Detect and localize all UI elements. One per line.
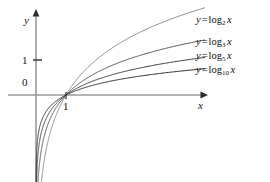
curve-label-log2-equals: = — [201, 14, 209, 25]
curve-label-log3-func: log — [209, 36, 222, 47]
curve-label-log10-func: log — [209, 64, 222, 75]
curve-label-log10-lhs: y — [196, 64, 201, 75]
curve-y-log-10-x — [36, 69, 204, 182]
curve-label-log10-arg: x — [229, 64, 235, 75]
curve-label-log2-lhs: y — [196, 14, 201, 25]
curve-label-log2-base: 2 — [222, 19, 226, 27]
curve-label-log3-arg: x — [226, 36, 232, 47]
curve-label-log3-lhs: y — [196, 36, 201, 47]
curve-label-log5-arg: x — [226, 50, 232, 61]
x-tick-label-1: 1 — [63, 101, 69, 112]
logarithm-functions-figure: y x 1 1 0 y=log2x y=log3x y=log5x y=log1… — [0, 0, 270, 182]
curve-label-log5-equals: = — [201, 50, 209, 61]
curve-label-log3-base: 3 — [222, 41, 226, 49]
y-axis-label: y — [24, 15, 29, 26]
curve-label-log2-func: log — [209, 14, 222, 25]
plot-canvas — [0, 0, 270, 182]
curve-label-log10-base: 10 — [222, 69, 229, 77]
x-axis-arrowhead — [201, 92, 209, 99]
curve-label-log5-func: log — [209, 50, 222, 61]
curve-y-log-5-x — [36, 57, 204, 182]
curve-label-log5-lhs: y — [196, 50, 201, 61]
y-axis-arrowhead — [33, 9, 40, 17]
y-tick-label-1: 1 — [22, 55, 28, 66]
origin-label: 0 — [22, 77, 28, 88]
curve-label-log3-equals: = — [201, 36, 209, 47]
curve-label-log2: y=log2x — [196, 15, 232, 26]
x-axis-label: x — [198, 100, 203, 111]
curve-label-log5: y=log5x — [196, 51, 232, 62]
curve-label-log10-equals: = — [201, 64, 209, 75]
curve-label-log5-base: 5 — [222, 55, 226, 63]
curve-label-log2-arg: x — [226, 14, 232, 25]
curve-label-log3: y=log3x — [196, 37, 232, 48]
curve-label-log10: y=log10x — [196, 65, 235, 76]
